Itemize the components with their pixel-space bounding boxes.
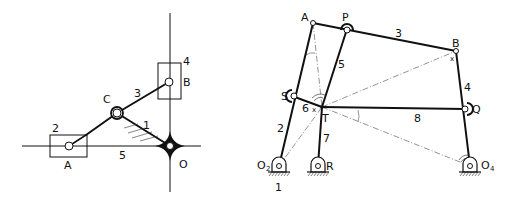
label-pivot-o4-subscript: 4 <box>490 165 495 173</box>
label-link-2: 2 <box>277 122 284 135</box>
joint-a-pin <box>311 21 316 26</box>
label-point-q: Q <box>472 103 481 116</box>
label-pivot-o4: O <box>481 159 490 172</box>
left-mechanism: 4 B 3 C 1 2 A 5 O <box>22 13 201 192</box>
joint-p-pin <box>344 27 350 33</box>
mechanism-diagrams: 4 B 3 C 1 2 A 5 O <box>0 0 514 200</box>
mark-x-b: x <box>450 55 454 63</box>
pivot-o-pin <box>167 143 174 150</box>
link-8 <box>322 107 465 109</box>
label-point-p: P <box>342 11 349 24</box>
label-point-s: S <box>281 90 288 103</box>
label-point-r: R <box>326 160 334 173</box>
label-point-a: A <box>301 11 309 24</box>
link-3-coupler <box>313 23 456 51</box>
label-link-5: 5 <box>119 149 126 162</box>
label-point-c: C <box>103 93 111 106</box>
mark-x-t: x <box>312 106 316 114</box>
joint-a-pin <box>65 142 73 150</box>
label-point-o: O <box>179 158 188 171</box>
label-link-4: 4 <box>464 81 471 94</box>
label-link-7: 7 <box>323 132 330 145</box>
label-link-1: 1 <box>275 181 282 194</box>
label-link-3: 3 <box>134 87 141 100</box>
label-link-5: 5 <box>338 58 345 71</box>
label-pivot-o2: O <box>257 159 266 172</box>
joint-t-pin <box>320 105 324 109</box>
joint-b-pin <box>165 78 173 86</box>
label-point-t: T <box>321 112 329 125</box>
label-pivot-o2-subscript: 2 <box>266 165 270 173</box>
joint-q-pin <box>462 106 468 112</box>
right-mechanism: A P B S T Q R O 2 O 4 1 2 3 4 5 6 7 8 x … <box>257 11 495 194</box>
label-link-2: 2 <box>52 122 59 135</box>
label-link-6: 6 <box>302 102 309 115</box>
link-1-hatching <box>124 124 158 141</box>
label-point-b: B <box>183 76 191 89</box>
joint-c-pin <box>113 109 121 117</box>
joint-s-pin <box>291 93 297 99</box>
label-point-b: B <box>452 37 460 50</box>
ground-pivot-o2-icon <box>268 157 290 176</box>
label-point-a: A <box>64 159 72 172</box>
label-link-4: 4 <box>183 55 190 68</box>
label-link-1: 1 <box>143 119 150 132</box>
label-link-3: 3 <box>395 27 402 40</box>
label-link-8: 8 <box>414 112 421 125</box>
